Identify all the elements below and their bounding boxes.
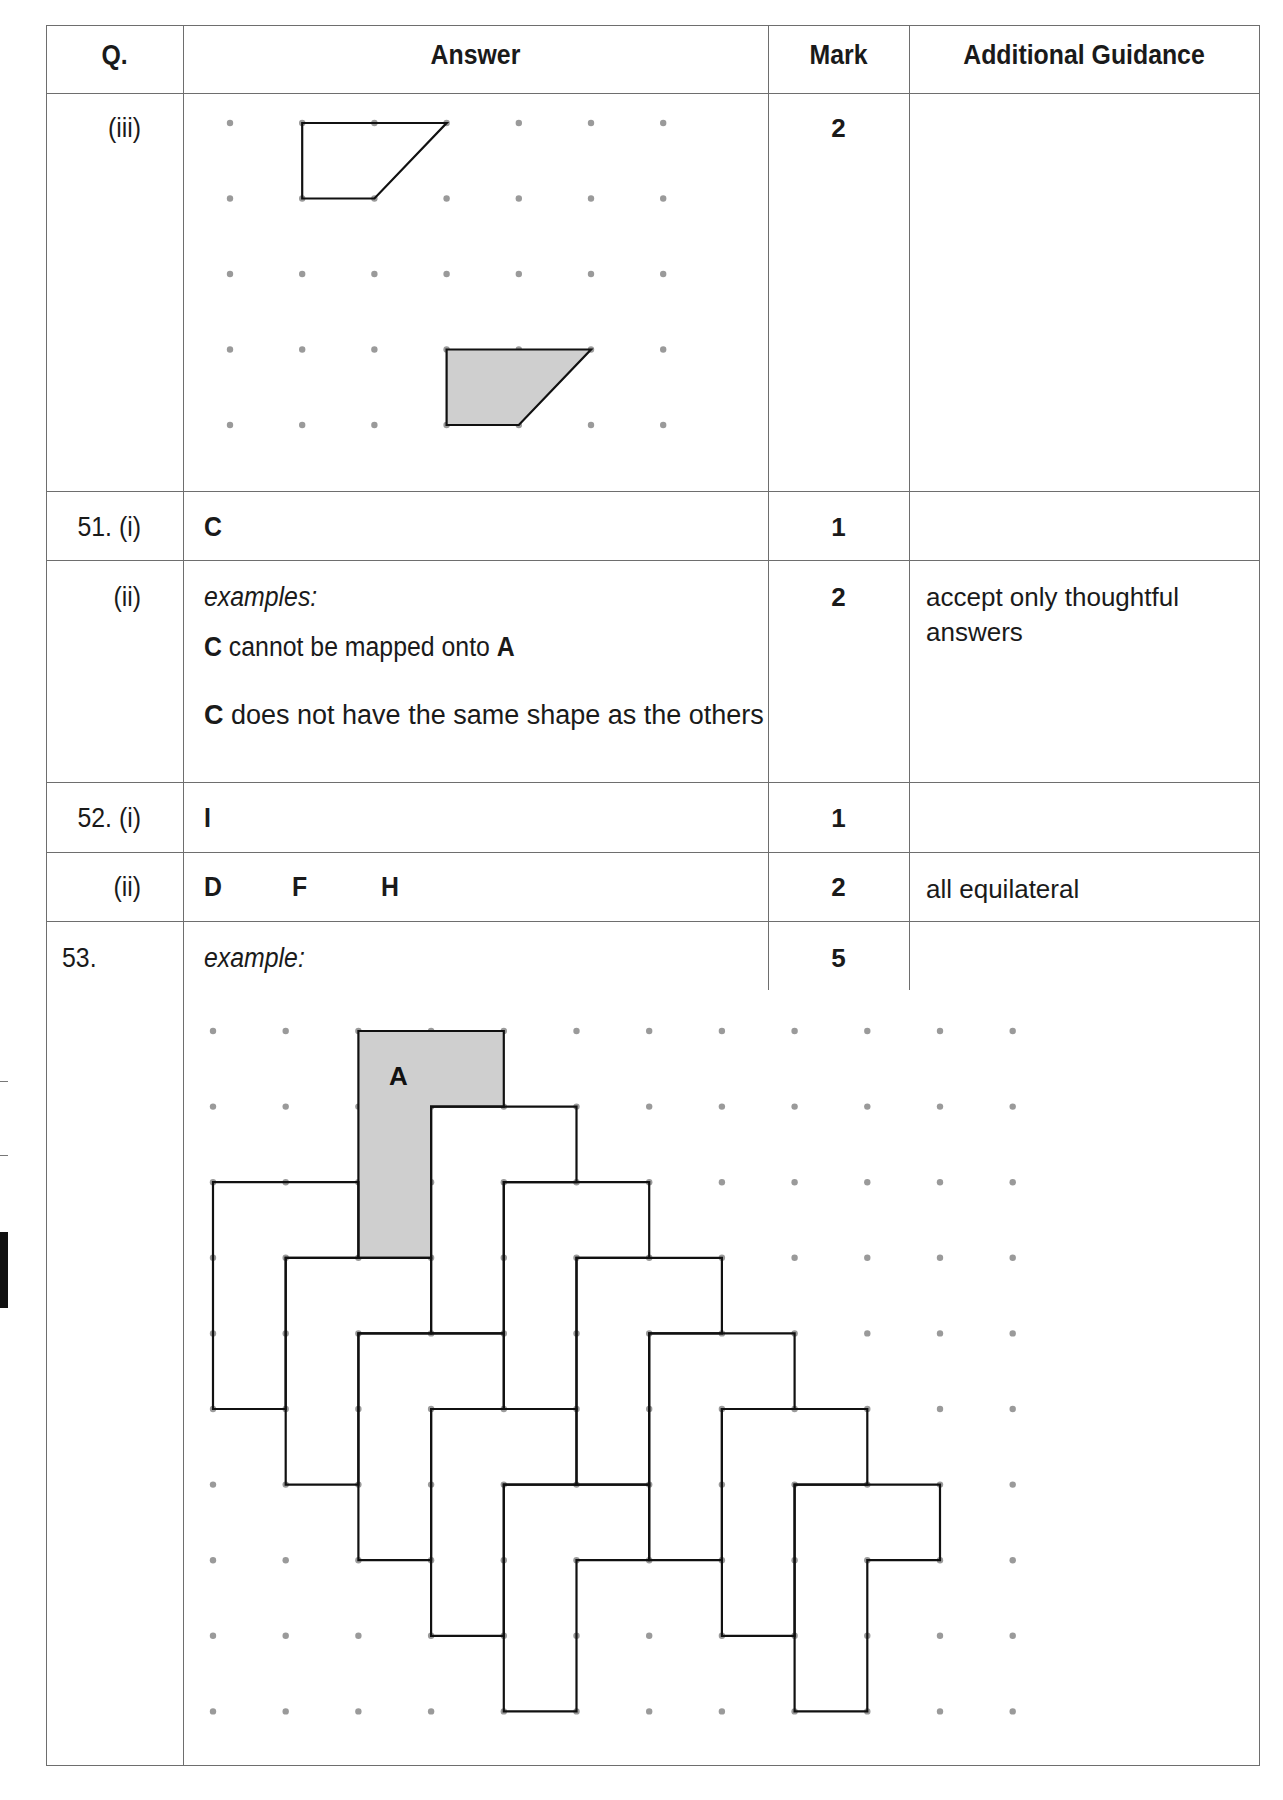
mark-value: 2: [768, 582, 909, 613]
grid-dot: [1010, 1633, 1016, 1639]
grid-dot: [283, 1633, 289, 1639]
grid-dot: [443, 195, 449, 201]
grid-dot: [864, 1330, 870, 1336]
grid-dot: [646, 1103, 652, 1109]
header-q: Q.: [51, 40, 177, 71]
header-guidance: Additional Guidance: [923, 40, 1245, 71]
grid-dot: [1010, 1557, 1016, 1563]
answer-bold: C: [204, 700, 224, 730]
margin-tab-marker: [0, 1232, 8, 1308]
col-divider-answer: [768, 25, 769, 990]
grid-dot: [428, 1708, 434, 1714]
answer-text: C: [204, 512, 222, 543]
answer-text: does not have the same shape as the othe…: [224, 700, 764, 730]
guidance-text: accept only thoughtful answers: [926, 580, 1246, 650]
answer-letter: D: [204, 872, 222, 903]
grid-dot: [719, 1708, 725, 1714]
row-divider: [46, 491, 1260, 492]
grid-dot: [719, 1103, 725, 1109]
grid-dot: [210, 1481, 216, 1487]
grid-dot: [660, 195, 666, 201]
grid-dot: [937, 1028, 943, 1034]
grid-dot: [283, 1557, 289, 1563]
grid-dot: [371, 346, 377, 352]
grid-dot: [660, 346, 666, 352]
grid-dot: [227, 271, 233, 277]
question-number: 51. (i): [54, 512, 141, 543]
header-mark: Mark: [774, 40, 904, 71]
grid-dot: [516, 271, 522, 277]
grid-dot: [646, 1028, 652, 1034]
grid-dot: [210, 1103, 216, 1109]
margin-tick: [0, 1155, 8, 1156]
grid-dot: [1010, 1481, 1016, 1487]
tessellated-l-shape: [795, 1485, 940, 1712]
grid-dot: [588, 271, 594, 277]
table-border-bottom: [46, 1765, 1260, 1766]
grid-dot: [791, 1179, 797, 1185]
row-divider: [46, 921, 1260, 922]
mark-value: 2: [768, 113, 909, 144]
grid-dot: [1010, 1708, 1016, 1714]
mark-value: 1: [768, 803, 909, 834]
grid-dot: [719, 1179, 725, 1185]
answer-letter: H: [381, 872, 399, 903]
grid-dot: [864, 1028, 870, 1034]
grid-dot: [937, 1255, 943, 1261]
grid-dot: [937, 1406, 943, 1412]
grid-dot: [210, 1708, 216, 1714]
grid-dot: [864, 1255, 870, 1261]
question-number: (iii): [54, 113, 141, 144]
grid-dot: [371, 271, 377, 277]
table-border-right: [1259, 25, 1260, 1766]
question-number: 53.: [62, 943, 97, 974]
mark-value: 5: [768, 943, 909, 974]
grid-dot: [516, 120, 522, 126]
grid-dot: [660, 120, 666, 126]
grid-dot: [646, 1633, 652, 1639]
grid-dot: [227, 195, 233, 201]
grid-dot: [791, 1103, 797, 1109]
shaded-quadrilateral: [447, 350, 591, 426]
answer-example: C does not have the same shape as the ot…: [204, 698, 764, 732]
grid-dot: [1010, 1255, 1016, 1261]
table-border-top: [46, 25, 1260, 26]
grid-dot: [864, 1179, 870, 1185]
grid-dot: [1010, 1103, 1016, 1109]
grid-dot: [283, 1708, 289, 1714]
grid-dot: [299, 422, 305, 428]
grid-dot: [937, 1179, 943, 1185]
grid-dot: [299, 346, 305, 352]
grid-dot: [227, 346, 233, 352]
answer-intro: examples:: [204, 582, 317, 613]
grid-dot: [646, 1708, 652, 1714]
row-divider: [46, 782, 1260, 783]
grid-dot: [1010, 1179, 1016, 1185]
grid-dot: [937, 1103, 943, 1109]
row-divider: [46, 93, 1260, 94]
grid-dot: [660, 271, 666, 277]
table-border-left: [46, 25, 47, 1766]
col-divider-q: [183, 25, 184, 1766]
header-answer: Answer: [206, 40, 744, 71]
grid-dot: [1010, 1330, 1016, 1336]
grid-dot: [355, 1633, 361, 1639]
grid-dot: [227, 120, 233, 126]
grid-dot: [1010, 1028, 1016, 1034]
grid-dot: [937, 1708, 943, 1714]
mark-value: 1: [768, 512, 909, 543]
row-divider: [46, 852, 1260, 853]
grid-dot: [791, 1028, 797, 1034]
grid-dot: [371, 422, 377, 428]
answer-bold: A: [497, 632, 515, 662]
grid-dot: [588, 422, 594, 428]
question-number: 52. (i): [54, 803, 141, 834]
guidance-text: all equilateral: [926, 872, 1246, 907]
grid-dot: [516, 195, 522, 201]
shape-label-a: A: [389, 1061, 408, 1091]
answer-bold: C: [204, 632, 222, 662]
grid-dot: [864, 1103, 870, 1109]
answer-example: C cannot be mapped onto A: [204, 632, 515, 663]
answer-text: cannot be mapped onto: [222, 632, 497, 662]
margin-tick: [0, 1081, 8, 1082]
